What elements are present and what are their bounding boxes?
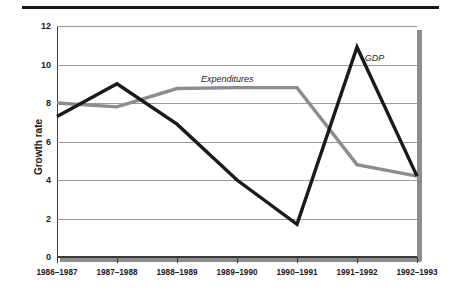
x-tick-label-5: 1991–1992 <box>337 269 378 277</box>
x-tick-label-0: 1986–1987 <box>37 269 78 277</box>
x-tick-mark-6 <box>417 257 418 263</box>
y-axis-title: Growth rate <box>33 118 44 174</box>
x-tick-label-6: 1992–1993 <box>397 269 438 277</box>
chart-figure: Growth rate 024681012 1986–19871987–1988… <box>0 0 461 293</box>
series-line-gdp <box>57 47 417 224</box>
x-tick-mark-1 <box>117 257 118 263</box>
y-tick-label-10: 10 <box>41 60 51 69</box>
x-tick-mark-4 <box>297 257 298 263</box>
series-lines <box>57 26 417 257</box>
series-line-expenditures <box>57 88 417 177</box>
x-tick-mark-3 <box>237 257 238 263</box>
x-tick-label-1: 1987–1988 <box>97 269 138 277</box>
top-rule-divider <box>22 6 439 9</box>
y-tick-label-2: 2 <box>46 214 51 223</box>
x-tick-label-3: 1989–1990 <box>217 269 258 277</box>
x-tick-mark-0 <box>57 257 58 263</box>
plot-area: 024681012 1986–19871987–19881988–1989198… <box>57 26 417 257</box>
x-tick-mark-2 <box>177 257 178 263</box>
x-tick-label-2: 1988–1989 <box>157 269 198 277</box>
x-tick-mark-5 <box>357 257 358 263</box>
y-tick-label-12: 12 <box>41 22 51 31</box>
y-tick-label-8: 8 <box>46 99 51 108</box>
x-tick-label-4: 1990–1991 <box>277 269 318 277</box>
plot-right-shadow <box>417 30 422 261</box>
y-tick-label-6: 6 <box>46 137 51 146</box>
y-tick-label-0: 0 <box>46 253 51 262</box>
y-tick-label-4: 4 <box>46 176 51 185</box>
